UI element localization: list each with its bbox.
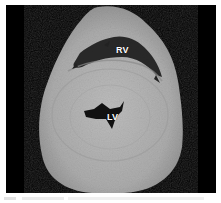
heart-section-illustration xyxy=(6,5,216,193)
myocardium-outline xyxy=(39,6,183,193)
caption-area xyxy=(4,196,214,201)
rv-label: RV xyxy=(116,45,129,55)
lv-label: LV xyxy=(107,112,118,122)
specimen-photo: RV LV xyxy=(6,5,216,193)
illegible-caption-text xyxy=(4,197,204,200)
